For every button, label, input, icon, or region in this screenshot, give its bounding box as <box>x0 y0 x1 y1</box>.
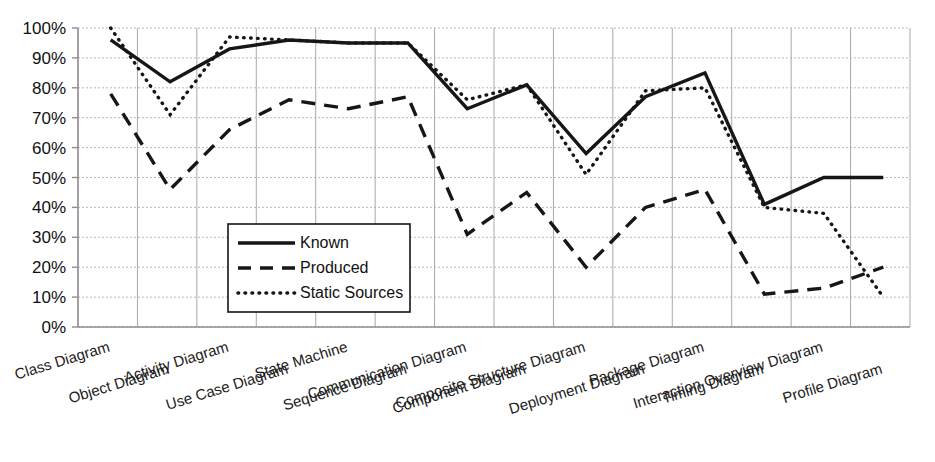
y-axis-tick-label: 100% <box>23 19 66 38</box>
line-chart: 100%90%80%70%60%50%40%30%20%10%0% Class … <box>0 0 935 462</box>
x-axis-tick-labels: Class DiagramObject DiagramActivity Diag… <box>13 338 885 417</box>
x-axis-tick-label: Profile Diagram <box>780 360 884 406</box>
y-axis-tick-label: 70% <box>32 109 66 128</box>
chart-container: 100%90%80%70%60%50%40%30%20%10%0% Class … <box>0 0 935 462</box>
y-axis-tick-label: 30% <box>32 228 66 247</box>
y-axis-tick-label: 20% <box>32 258 66 277</box>
y-axis-tick-label: 40% <box>32 198 66 217</box>
series-line-known <box>111 40 884 204</box>
series-line-static-sources <box>111 28 884 297</box>
legend-label-produced: Produced <box>300 259 369 276</box>
horizontal-gridlines <box>72 28 910 327</box>
y-axis-tick-labels: 100%90%80%70%60%50%40%30%20%10%0% <box>23 19 66 337</box>
y-axis-tick-label: 10% <box>32 288 66 307</box>
legend: Known Produced Static Sources <box>228 224 410 312</box>
legend-label-known: Known <box>300 234 349 251</box>
y-axis-tick-label: 60% <box>32 139 66 158</box>
y-axis-tick-label: 80% <box>32 79 66 98</box>
x-axis-tick-label: State Machine <box>253 338 350 382</box>
x-axis-tick-label: Activity Diagram <box>122 338 231 386</box>
legend-label-static-sources: Static Sources <box>300 284 403 301</box>
y-axis-tick-label: 50% <box>32 169 66 188</box>
y-axis-tick-label: 90% <box>32 49 66 68</box>
series-line-produced <box>111 94 884 294</box>
y-axis-tick-label: 0% <box>41 318 66 337</box>
x-axis-tick-label: Class Diagram <box>13 338 112 383</box>
